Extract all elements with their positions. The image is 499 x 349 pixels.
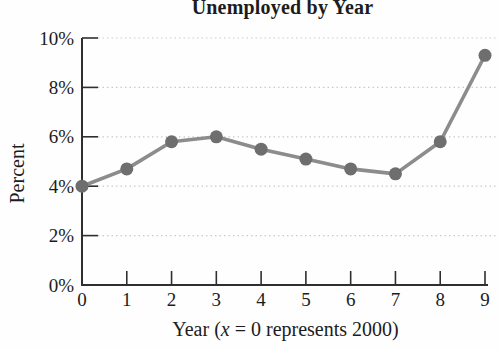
y-tick-label: 0% — [49, 275, 75, 296]
data-point — [479, 49, 492, 62]
x-axis-label-variable: x — [221, 318, 230, 340]
y-tick-label: 6% — [49, 126, 75, 147]
y-tick-label: 10% — [39, 28, 74, 49]
data-point — [76, 180, 89, 193]
x-tick-label: 3 — [212, 289, 222, 310]
y-tick-label: 4% — [49, 176, 75, 197]
x-tick-label: 8 — [435, 289, 445, 310]
data-point — [255, 143, 268, 156]
x-axis-label: Year (x = 0 represents 2000) — [82, 318, 489, 341]
x-tick-label: 7 — [391, 289, 401, 310]
y-tick-label: 2% — [49, 225, 75, 246]
data-point — [210, 130, 223, 143]
x-tick-label: 5 — [301, 289, 311, 310]
x-tick-label: 2 — [167, 289, 177, 310]
data-point — [165, 135, 178, 148]
x-tick-label: 1 — [122, 289, 132, 310]
unemployment-line-chart-figure: Unemployed by Year Percent 0%2%4%6%8%10%… — [0, 0, 499, 349]
data-point — [344, 162, 357, 175]
plot-area: 0%2%4%6%8%10%0123456789 — [0, 0, 499, 349]
data-line — [82, 55, 485, 186]
data-point — [299, 153, 312, 166]
x-axis-label-suffix: = 0 represents 2000) — [230, 318, 399, 340]
x-axis-label-prefix: Year ( — [172, 318, 221, 340]
x-tick-label: 9 — [480, 289, 490, 310]
x-tick-label: 4 — [256, 289, 266, 310]
data-point — [434, 135, 447, 148]
x-tick-label: 6 — [346, 289, 356, 310]
x-tick-label: 0 — [77, 289, 87, 310]
data-point — [120, 162, 133, 175]
data-point — [389, 167, 402, 180]
y-tick-label: 8% — [49, 77, 75, 98]
